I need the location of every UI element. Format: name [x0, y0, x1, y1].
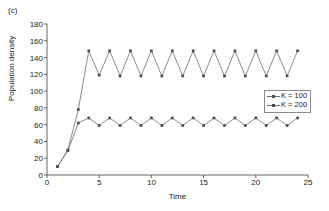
legend: K = 100 K = 200 [264, 90, 311, 113]
legend-label: K = 200 [281, 101, 307, 110]
series-1 [56, 117, 299, 168]
legend-marker-icon [267, 101, 280, 110]
x-tick-label: 10 [147, 178, 156, 187]
x-tick-label: 15 [199, 178, 208, 187]
legend-marker-icon [267, 92, 280, 101]
legend-item-k200: K = 200 [267, 101, 307, 110]
series-2 [56, 49, 299, 167]
x-tick-label: 5 [97, 178, 101, 187]
x-tick-label: 20 [251, 178, 260, 187]
x-tick-label: 25 [304, 178, 313, 187]
figure-panel-c: (c) Population density Time 020406080100… [0, 0, 329, 211]
x-tick-label: 0 [45, 178, 49, 187]
